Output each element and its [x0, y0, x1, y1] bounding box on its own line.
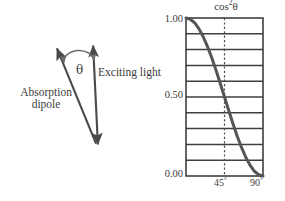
- theta-angle-label: θ: [76, 64, 83, 77]
- absorption-dipole-label-line2: dipole: [8, 98, 84, 110]
- x-tick-45-value: 45: [214, 177, 224, 188]
- x-tick-label-45: 45°: [214, 178, 227, 189]
- degree-icon: °: [224, 176, 227, 184]
- exciting-light-label: Exciting light: [98, 66, 161, 78]
- y-tick-label-3: 0.00: [156, 168, 183, 179]
- absorption-dipole-label-line1: Absorption: [8, 86, 84, 98]
- theta-arc: [64, 50, 94, 62]
- chart-y-axis-ticks: 1.00 0.50 0.00: [156, 0, 183, 201]
- figure-root: Absorption dipole Exciting light θ cos2θ…: [0, 0, 285, 201]
- y-tick-label-2: 0.50: [156, 89, 183, 100]
- degree-icon: °: [260, 176, 263, 184]
- chart-title: cos2θ: [196, 1, 256, 13]
- x-tick-90-value: 90: [250, 177, 260, 188]
- chart-title-variable: θ: [233, 0, 238, 12]
- chart-title-base: cos: [214, 0, 229, 12]
- chart-group: [186, 18, 263, 176]
- absorption-dipole-label: Absorption dipole: [8, 86, 84, 110]
- y-tick-label-1: 1.00: [156, 13, 183, 24]
- x-tick-label-90: 90°: [250, 178, 263, 189]
